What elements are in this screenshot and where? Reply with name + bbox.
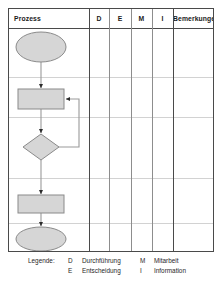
row-separator-4: [9, 223, 213, 224]
column-header-m: M: [131, 9, 152, 28]
column-header-e: E: [109, 9, 131, 28]
column-header-prozess: Prozess: [9, 9, 89, 28]
row-separator-2: [9, 117, 213, 118]
legend-key-i: I: [140, 266, 142, 276]
shape-start-terminator: [16, 32, 66, 62]
legend-key-m: M: [140, 256, 145, 266]
legend-text-i: Information: [154, 266, 186, 276]
row-separator-1: [9, 77, 213, 78]
column-separator-d-e: [109, 9, 110, 251]
column-header-i: I: [152, 9, 173, 28]
shape-process-step-2: [18, 195, 64, 213]
legend-text-m: Mitarbeit: [154, 256, 179, 266]
shape-end-terminator: [16, 227, 66, 251]
column-separator-e-m: [131, 9, 132, 251]
table-header-row: Prozess D E M I Bemerkungen: [9, 9, 213, 29]
column-separator-i-bemerkungen: [173, 9, 174, 251]
legend-title: Legende:: [28, 256, 55, 266]
legend-key-d: D: [68, 256, 73, 266]
column-header-bemerkungen: Bemerkungen: [173, 9, 213, 28]
column-separator-prozess-d: [89, 9, 90, 251]
row-separator-3: [9, 178, 213, 179]
process-flowchart: [9, 9, 215, 251]
shape-decision-step: [23, 134, 59, 160]
connector-decision-feedback-loop: [59, 99, 79, 147]
legend-text-e: Entscheidung: [82, 266, 121, 276]
flowchart-matrix-page: Prozess D E M I Bemerkungen: [0, 0, 222, 283]
process-matrix-table: Prozess D E M I Bemerkungen: [8, 8, 214, 252]
legend-key-e: E: [68, 266, 72, 276]
legend: Legende: D Durchführung E Entscheidung M…: [8, 256, 214, 280]
column-header-d: D: [89, 9, 109, 28]
column-separator-m-i: [152, 9, 153, 251]
shape-process-step-1: [18, 89, 64, 109]
legend-text-d: Durchführung: [82, 256, 121, 266]
